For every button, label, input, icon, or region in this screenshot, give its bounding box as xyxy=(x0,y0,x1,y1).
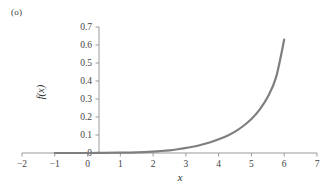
x-axis-tick-label: 1 xyxy=(118,159,123,169)
x-axis-title: x xyxy=(177,172,183,183)
y-axis-tick-label: 0.4 xyxy=(80,76,92,86)
x-axis-tick-label: 6 xyxy=(282,159,287,169)
y-axis-title: f(x) xyxy=(35,84,47,99)
x-axis-tick-label: −1 xyxy=(50,159,60,169)
x-axis-tick-label: 4 xyxy=(216,159,221,169)
chart-plot-area: 00.10.20.30.40.50.60.7 −2−101234567 x f(… xyxy=(0,0,332,187)
y-axis-tick-label: 0.7 xyxy=(80,22,92,32)
y-axis-tick-label: 0.6 xyxy=(80,40,92,50)
x-axis-tick-label: 7 xyxy=(315,159,320,169)
x-axis-tick-label: 2 xyxy=(151,159,156,169)
x-axis-tick-label: −2 xyxy=(17,159,27,169)
y-axis-tick-label: 0.1 xyxy=(80,130,92,140)
x-axis-tick-label: 0 xyxy=(85,159,90,169)
y-axis-tick-label: 0.5 xyxy=(80,58,92,68)
y-axis-tick-label: 0.2 xyxy=(80,112,92,122)
x-axis-tick-labels: −2−101234567 xyxy=(17,159,320,169)
x-axis-tick-label: 5 xyxy=(249,159,254,169)
x-axis-tick-label: 3 xyxy=(184,159,189,169)
figure-panel: (o) 00.10.20.30.40.50.60.7 −2−101234567 … xyxy=(0,0,332,187)
y-axis-ticks xyxy=(96,27,100,153)
y-axis-tick-labels: 00.10.20.30.40.50.60.7 xyxy=(80,22,92,158)
y-axis-tick-label: 0.3 xyxy=(80,94,92,104)
